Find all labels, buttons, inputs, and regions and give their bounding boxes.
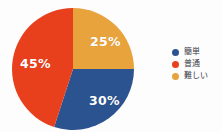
legend-item-hard[interactable]: 難しい [172, 70, 222, 82]
legend-dot-icon [172, 49, 179, 56]
legend-item-normal[interactable]: 普通 [172, 58, 222, 70]
legend-label: 簡単 [184, 46, 200, 58]
legend-label: 普通 [184, 58, 200, 70]
legend-label: 難しい [184, 70, 208, 82]
chart-legend: 簡単 普通 難しい [172, 46, 222, 82]
slice-label-hard: 25% [90, 34, 121, 49]
slice-label-easy: 30% [89, 93, 120, 108]
pie-chart: 25% 45% 30% 簡単 普通 難しい [0, 0, 222, 132]
slice-label-normal: 45% [20, 56, 51, 71]
legend-dot-icon [172, 73, 179, 80]
legend-dot-icon [172, 61, 179, 68]
legend-item-easy[interactable]: 簡単 [172, 46, 222, 58]
